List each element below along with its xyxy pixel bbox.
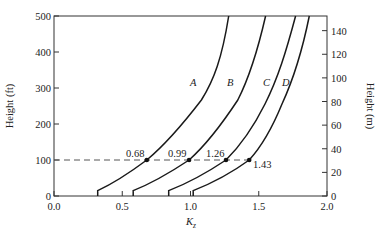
curve-label-d: D bbox=[281, 77, 290, 88]
y-ticks-left bbox=[54, 16, 59, 196]
x-tick-0: 0.0 bbox=[47, 201, 60, 212]
y-right-tick-20: 20 bbox=[331, 167, 342, 178]
value-label-a: 0.68 bbox=[126, 148, 144, 159]
curve-c bbox=[169, 16, 296, 196]
dot-d bbox=[247, 158, 252, 163]
curve-label-a: A bbox=[189, 77, 197, 88]
y-right-tick-80: 80 bbox=[331, 97, 342, 108]
y-tick-labels-right: 0 20 40 60 80 100 120 140 bbox=[331, 26, 347, 202]
value-label-b: 0.99 bbox=[168, 148, 186, 159]
x-tick-1.5: 1.5 bbox=[252, 201, 265, 212]
y-right-tick-120: 120 bbox=[331, 49, 347, 60]
chart-canvas: 0.0 0.5 1.0 1.5 2.0 0 100 200 300 400 50… bbox=[0, 0, 384, 235]
y-tick-300: 300 bbox=[35, 83, 51, 94]
curve-label-c: C bbox=[263, 77, 271, 88]
y-axis-title-left: Height (ft) bbox=[4, 83, 16, 128]
curve-a bbox=[98, 16, 229, 196]
dot-a bbox=[145, 158, 150, 163]
y-right-tick-140: 140 bbox=[331, 26, 347, 37]
value-label-d: 1.43 bbox=[253, 159, 271, 170]
y-ticks-right bbox=[322, 31, 327, 196]
dot-b bbox=[187, 158, 192, 163]
y-tick-100: 100 bbox=[35, 155, 51, 166]
y-axis-title-right: Height (m) bbox=[364, 83, 376, 130]
plot-frame bbox=[54, 16, 327, 196]
dot-c bbox=[224, 158, 229, 163]
curve-label-b: B bbox=[227, 77, 234, 88]
x-axis-title-sub: z bbox=[192, 221, 196, 230]
y-right-tick-60: 60 bbox=[331, 120, 342, 131]
y-tick-0: 0 bbox=[46, 191, 51, 202]
x-ticks bbox=[54, 191, 327, 196]
x-tick-1.0: 1.0 bbox=[184, 201, 197, 212]
y-tick-labels-left: 0 100 200 300 400 500 bbox=[35, 11, 51, 202]
y-right-tick-100: 100 bbox=[331, 73, 347, 84]
curves bbox=[98, 16, 310, 196]
x-tick-labels: 0.0 0.5 1.0 1.5 2.0 bbox=[47, 201, 333, 212]
curve-b bbox=[133, 16, 265, 196]
x-tick-0.5: 0.5 bbox=[116, 201, 129, 212]
value-label-c: 1.26 bbox=[206, 148, 224, 159]
y-tick-200: 200 bbox=[35, 119, 51, 130]
x-axis-title: Kz bbox=[185, 216, 196, 230]
x-tick-2.0: 2.0 bbox=[320, 201, 333, 212]
y-right-tick-40: 40 bbox=[331, 144, 342, 155]
y-right-tick-0: 0 bbox=[331, 191, 336, 202]
y-tick-500: 500 bbox=[35, 11, 51, 22]
y-tick-400: 400 bbox=[35, 47, 51, 58]
